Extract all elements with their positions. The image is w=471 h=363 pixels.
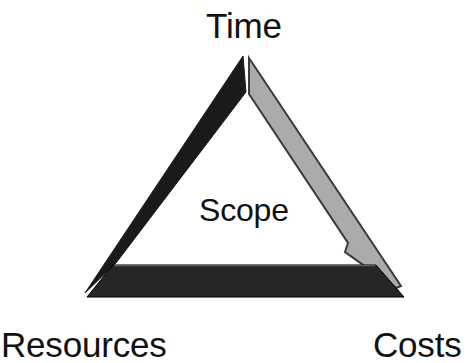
center-label-scope: Scope <box>199 194 289 226</box>
project-management-triangle-diagram: Time Resources Costs Scope <box>0 0 471 363</box>
triangle-side-bottom-resources-costs <box>87 265 404 297</box>
vertex-label-time: Time <box>206 8 282 43</box>
triangle-side-right-time-costs <box>249 58 401 288</box>
vertex-label-resources: Resources <box>1 327 167 362</box>
vertex-label-costs: Costs <box>373 327 461 362</box>
triangle-graphic <box>0 0 471 363</box>
triangle-side-left-time-resources <box>85 56 246 293</box>
